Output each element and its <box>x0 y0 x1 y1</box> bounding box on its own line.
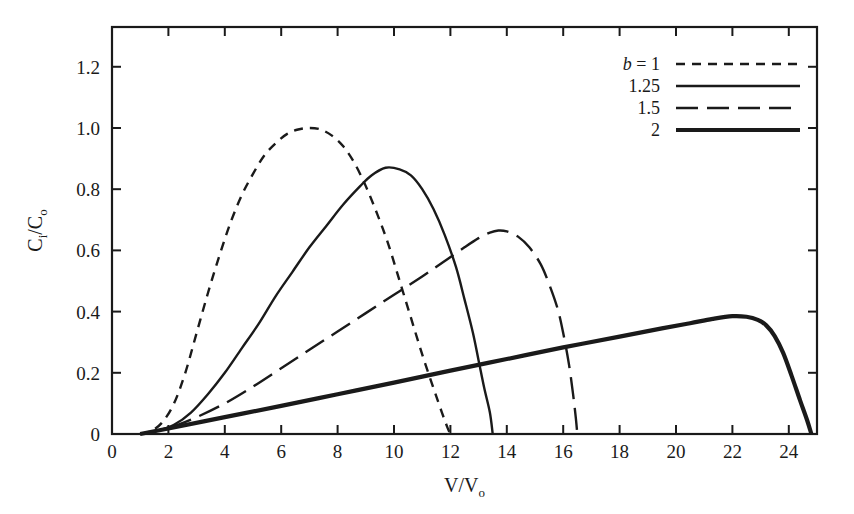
x-tick-label: 0 <box>107 441 117 462</box>
x-axis-tick-labels: 024681012141618202224 <box>107 441 799 462</box>
legend-label-1: b = 1 <box>623 54 660 74</box>
x-tick-label: 24 <box>779 441 799 462</box>
x-axis-title: V/Vo <box>444 474 485 500</box>
data-curves <box>140 128 811 434</box>
y-tick-label: 0.2 <box>76 363 100 384</box>
legend-label-1.5: 1.5 <box>638 98 661 118</box>
legend-label-1.25: 1.25 <box>629 76 661 96</box>
x-tick-label: 12 <box>441 441 460 462</box>
plot-frame <box>112 27 817 434</box>
figure-container: 024681012141618202224 00.20.40.60.81.01.… <box>0 0 854 514</box>
x-tick-label: 2 <box>164 441 174 462</box>
chart-legend: b = 11.251.52 <box>623 54 800 140</box>
x-axis-title-text: V/Vo <box>444 474 485 500</box>
y-tick-label: 1.0 <box>76 118 100 139</box>
curve-b-1.5 <box>140 230 577 434</box>
x-tick-label: 10 <box>385 441 404 462</box>
curve-b-1.25 <box>140 167 493 434</box>
axis-ticks <box>112 27 817 434</box>
y-tick-label: 0.6 <box>76 240 100 261</box>
curve-b-1 <box>140 128 450 434</box>
y-tick-label: 0.8 <box>76 179 100 200</box>
x-tick-label: 20 <box>667 441 686 462</box>
y-axis-title-text: Ci/Co <box>24 209 50 251</box>
curve-b-2 <box>140 316 811 434</box>
y-axis-title: Ci/Co <box>24 209 50 251</box>
x-tick-label: 14 <box>497 441 517 462</box>
y-axis-tick-labels: 00.20.40.60.81.01.2 <box>76 57 100 445</box>
chart-plot: 024681012141618202224 00.20.40.60.81.01.… <box>0 0 854 514</box>
x-tick-label: 4 <box>220 441 230 462</box>
legend-label-2: 2 <box>651 120 660 140</box>
x-tick-label: 22 <box>723 441 742 462</box>
x-tick-label: 18 <box>610 441 629 462</box>
x-tick-label: 8 <box>333 441 343 462</box>
y-tick-label: 0.4 <box>76 302 100 323</box>
x-tick-label: 6 <box>276 441 286 462</box>
x-tick-label: 16 <box>554 441 573 462</box>
y-tick-label: 1.2 <box>76 57 100 78</box>
y-tick-label: 0 <box>91 424 101 445</box>
axis-frame <box>112 27 817 434</box>
